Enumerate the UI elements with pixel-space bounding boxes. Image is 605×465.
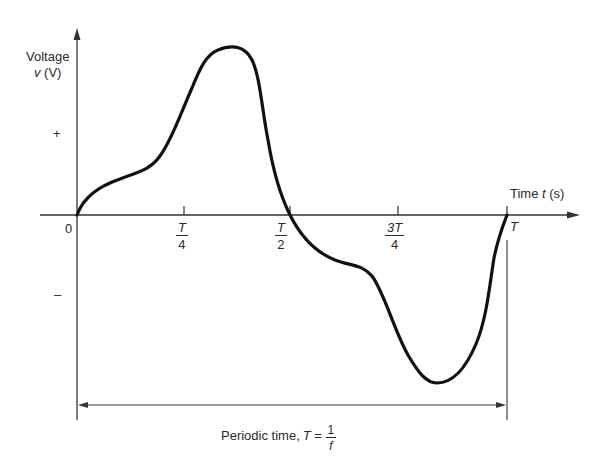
tick-numerator: 3T bbox=[385, 221, 404, 236]
period-caption-prefix: Periodic time, bbox=[221, 429, 300, 442]
tick-numerator: T bbox=[176, 221, 188, 236]
period-caption-denominator: f bbox=[329, 438, 332, 452]
period-caption-numerator: 1 bbox=[326, 424, 337, 438]
tick-denominator: 4 bbox=[391, 236, 398, 251]
tick-label-t-quarter: T 4 bbox=[176, 221, 188, 251]
period-caption: Periodic time, T = 1 f bbox=[221, 418, 336, 452]
y-axis-label-title: Voltage bbox=[26, 50, 69, 63]
x-axis-arrow-icon bbox=[567, 212, 580, 219]
negative-region-marker: – bbox=[54, 288, 61, 301]
tick-label-t-three-quarter: 3T 4 bbox=[385, 221, 404, 251]
x-axis-label-prefix: Time bbox=[510, 186, 542, 201]
period-arrow-right-icon bbox=[496, 402, 506, 408]
period-arrow-left-icon bbox=[78, 402, 88, 408]
period-caption-variable: T bbox=[303, 429, 311, 442]
origin-label: 0 bbox=[65, 222, 72, 235]
tick-label-t-end: T bbox=[510, 220, 518, 233]
tick-numerator: T bbox=[275, 221, 287, 236]
period-caption-fraction: 1 f bbox=[326, 424, 337, 452]
tick-denominator: 2 bbox=[277, 236, 284, 251]
tick-denominator: 4 bbox=[178, 236, 185, 251]
period-caption-equals: = bbox=[311, 429, 326, 442]
y-axis-label-unit: (V) bbox=[40, 65, 61, 80]
y-axis-arrow-icon bbox=[74, 28, 81, 40]
x-axis-label: Time t (s) bbox=[510, 187, 564, 200]
x-axis-label-unit: (s) bbox=[546, 186, 565, 201]
tick-label-t-half: T 2 bbox=[275, 221, 287, 251]
y-axis-label: Voltage v (V) bbox=[26, 50, 69, 79]
y-axis-label-unit-row: v (V) bbox=[26, 66, 69, 79]
positive-region-marker: + bbox=[53, 127, 61, 140]
